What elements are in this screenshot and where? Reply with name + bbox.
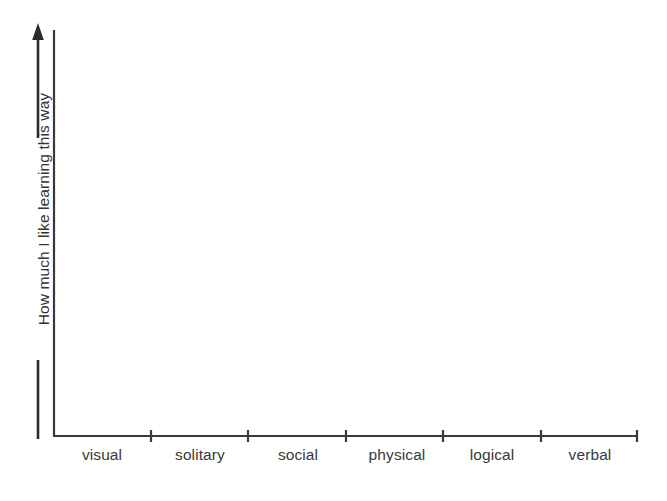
axis-lines [0,0,667,501]
x-axis-labels: visual solitary social physical logical … [53,446,638,472]
x-tick-label-solitary: solitary [175,446,225,464]
x-tick-label-physical: physical [369,446,426,464]
x-tick-label-social: social [278,446,318,464]
x-tick-label-verbal: verbal [569,446,612,464]
x-tick-label-visual: visual [82,446,122,464]
x-tick-label-logical: logical [470,446,515,464]
chart-container: How much I like learning this way visual… [0,0,667,501]
